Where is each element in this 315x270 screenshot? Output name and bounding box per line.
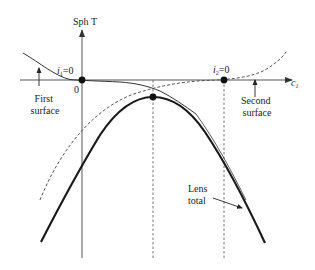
first-surface-label: First surface (31, 93, 60, 116)
y-axis-label: Sph T (73, 16, 97, 27)
lens-total-pointer (213, 198, 242, 208)
marker-i2 (221, 77, 228, 84)
second-surface-label: Second surface (241, 95, 273, 118)
i1-label: i1=0 (57, 65, 73, 77)
i2-label: i2=0 (213, 64, 229, 76)
sph-t-diagram: Sph T c1 0 i1=0 i2=0 First surface Secon… (0, 0, 315, 270)
marker-i1-origin (79, 77, 86, 84)
origin-label: 0 (74, 84, 79, 95)
marker-lens-total-max (150, 94, 157, 101)
x-axis-label: c1 (291, 77, 298, 89)
curve-second-surface (40, 52, 286, 200)
lens-total-label: Lens total (188, 183, 210, 206)
